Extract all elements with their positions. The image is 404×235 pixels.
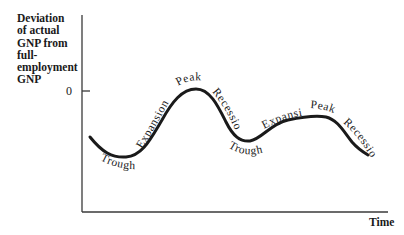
recession-label-1: Recession: [0, 0, 245, 132]
peak-label-1: Peak: [174, 70, 202, 87]
expansion-label-2: Expansion: [0, 0, 303, 131]
peak-label-2: Peak: [310, 98, 338, 115]
expansion-label-1: Expansion: [133, 97, 170, 150]
trough-label-1: Trough: [99, 151, 136, 172]
business-cycle-diagram: Trough Expansion Peak Recession Trough E…: [0, 0, 404, 235]
